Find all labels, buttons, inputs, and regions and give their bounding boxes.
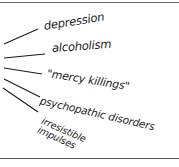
connector-alcoholism (4, 54, 45, 58)
connector-mercy-killings (4, 68, 42, 74)
diagram-canvas: depression alcoholism "mercy killings" p… (0, 0, 179, 167)
connector-depression (4, 29, 38, 44)
connector-irresistible-impulses (3, 88, 38, 112)
connector-psychopathic-disorders (4, 79, 40, 97)
